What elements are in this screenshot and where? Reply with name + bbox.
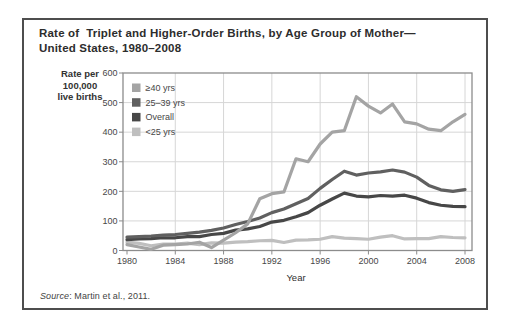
y-tick-label: 0: [112, 246, 117, 256]
y-tick-label: 200: [102, 187, 117, 197]
legend-label: 25–39 yrs: [146, 98, 186, 108]
source-label: Source: [40, 291, 69, 301]
y-tick-label: 600: [102, 68, 117, 78]
figure-box: Rate of Triplet and Higher-Order Births,…: [22, 18, 488, 310]
source-citation: : Martin et al., 2011.: [69, 291, 150, 301]
line-chart: 0100200300400500600198019841988199219962…: [94, 66, 490, 292]
legend-swatch: [132, 98, 141, 107]
x-tick-label: 1984: [165, 256, 185, 266]
legend-label: <25 yrs: [146, 127, 176, 137]
series-line-Overall: [127, 193, 465, 239]
x-tick-label: 2004: [407, 256, 427, 266]
figure-title-line1: Rate of Triplet and Higher-Order Births,…: [39, 26, 416, 41]
x-tick-label: 2008: [455, 256, 475, 266]
series-line-25–39 yrs: [127, 170, 465, 237]
legend-swatch: [132, 128, 141, 137]
y-tick-label: 100: [102, 216, 117, 226]
legend-swatch: [132, 84, 141, 93]
y-tick-label: 300: [102, 157, 117, 167]
legend-label: ≥40 yrs: [146, 83, 176, 93]
series-line-≥40 yrs: [127, 97, 465, 250]
x-tick-label: 1980: [117, 256, 137, 266]
x-axis-title: Year: [286, 272, 305, 283]
legend-swatch: [132, 113, 141, 122]
figure-title: Rate of Triplet and Higher-Order Births,…: [39, 26, 416, 55]
x-tick-label: 1996: [310, 256, 330, 266]
x-tick-label: 1988: [214, 256, 234, 266]
x-tick-label: 2000: [358, 256, 378, 266]
y-tick-label: 400: [102, 127, 117, 137]
figure-title-line2: United States, 1980–2008: [39, 41, 416, 56]
x-tick-label: 1992: [262, 256, 282, 266]
legend-label: Overall: [146, 112, 175, 122]
y-tick-label: 500: [102, 98, 117, 108]
page: Rate of Triplet and Higher-Order Births,…: [0, 0, 510, 330]
source-note: Source: Martin et al., 2011.: [40, 291, 150, 301]
